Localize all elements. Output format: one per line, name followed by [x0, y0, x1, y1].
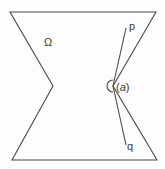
- ray-q-label: q: [127, 140, 133, 152]
- angle-label-close: ): [126, 81, 130, 93]
- ray-q: [113, 86, 126, 145]
- region-label-omega: Ω: [44, 36, 52, 48]
- domain-figure: Ω p q (a): [0, 0, 165, 169]
- angle-label: (a): [116, 81, 129, 93]
- diagram-canvas: Ω p q (a): [0, 0, 165, 169]
- ray-p: [113, 28, 126, 86]
- domain-boundary: [10, 12, 157, 160]
- ray-p-label: p: [129, 20, 135, 32]
- angle-arc: [107, 80, 113, 92]
